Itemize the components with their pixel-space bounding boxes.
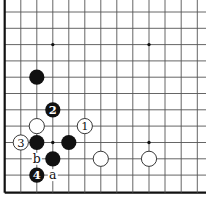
black-stone-icon [61, 135, 76, 150]
star-point-icon [51, 141, 54, 144]
black-stone [29, 70, 44, 85]
black-stone [29, 135, 44, 150]
black-stone-icon [29, 135, 44, 150]
white-stone [141, 151, 156, 166]
white-stone [29, 119, 44, 134]
black-stone-icon [45, 151, 60, 166]
move-number: 3 [17, 136, 24, 150]
black-stone-icon [29, 70, 44, 85]
star-point-icon [147, 141, 150, 144]
white-stone-1: 1 [77, 119, 92, 134]
black-stone [61, 135, 76, 150]
white-stone-icon [141, 151, 156, 166]
point-label-a: a [49, 167, 57, 182]
star-point-icon [147, 43, 150, 46]
white-stone [93, 151, 108, 166]
white-stone-3: 3 [13, 135, 28, 150]
white-stone-icon [29, 119, 44, 134]
black-stone-2: 2 [45, 102, 60, 117]
go-board: 2134 ba [0, 0, 211, 203]
move-number: 1 [81, 119, 88, 133]
star-point-icon [51, 43, 54, 46]
white-stone-icon [93, 151, 108, 166]
point-label-b: b [33, 151, 41, 166]
black-stone-4: 4 [29, 168, 44, 183]
move-number: 2 [49, 103, 57, 117]
black-stone [45, 151, 60, 166]
move-number: 4 [33, 168, 41, 182]
